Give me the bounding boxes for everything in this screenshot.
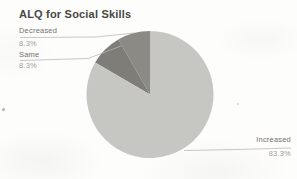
scan-artifact-speck: [237, 103, 239, 105]
slice-label-same: Same: [19, 51, 39, 60]
slice-value-same: 8.3%: [19, 62, 37, 71]
chart-card: ALQ for Social Skills Decreased 8.3% Sam…: [0, 0, 297, 179]
slice-value-decreased: 8.3%: [19, 40, 37, 49]
pie-slices: [87, 31, 214, 158]
slice-label-increased: Increased: [256, 136, 291, 145]
slice-value-increased: 83.3%: [269, 150, 291, 159]
slice-label-decreased: Decreased: [19, 27, 57, 36]
scan-artifact-speck: [2, 108, 5, 111]
